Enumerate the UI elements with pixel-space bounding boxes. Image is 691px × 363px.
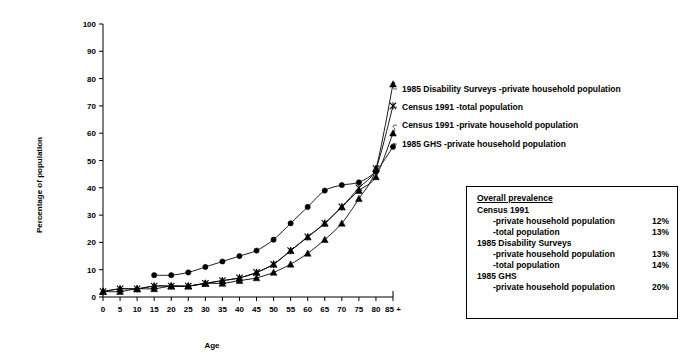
prevalence-row-spacer	[615, 249, 652, 259]
series-2	[100, 130, 397, 295]
y-tick-label: 70	[87, 102, 96, 111]
series-1	[100, 102, 396, 295]
x-tick-label: 5	[118, 305, 123, 314]
prevalence-box-title: Overall prevalence	[477, 193, 669, 203]
series-annotation-2: Census 1991 -private household populatio…	[402, 120, 578, 130]
prevalence-row: -private household population12%	[493, 216, 669, 226]
leader-lines	[393, 82, 397, 146]
prevalence-row-value: 20%	[652, 282, 669, 292]
prevalence-row: -private household population13%	[493, 249, 669, 259]
y-tick-label: 30	[87, 211, 96, 220]
y-axis-title: Percentage of population	[35, 137, 44, 233]
prevalence-row-spacer	[560, 227, 652, 237]
x-tick-label: 60	[303, 305, 312, 314]
series-layer	[100, 81, 397, 296]
prevalence-row-value: 12%	[652, 216, 669, 226]
x-tick-label: 55	[286, 305, 295, 314]
prevalence-row: -total population14%	[493, 260, 669, 270]
prevalence-row-label: -private household population	[493, 282, 615, 292]
x-tick-label: 30	[201, 305, 210, 314]
prevalence-group-name: Census 1991	[477, 205, 669, 215]
prevalence-box-body: Census 1991-private household population…	[477, 205, 669, 292]
y-tick-label: 10	[87, 266, 96, 275]
prevalence-row-value: 13%	[652, 227, 669, 237]
overall-prevalence-box: Overall prevalence Census 1991-private h…	[466, 186, 678, 319]
x-tick-label: 20	[167, 305, 176, 314]
x-axis-title: Age	[204, 341, 220, 350]
x-tick-label: 70	[337, 305, 346, 314]
prevalence-row: -total population13%	[493, 227, 669, 237]
y-tick-label: 90	[87, 47, 96, 56]
x-tick-label: 65	[320, 305, 329, 314]
y-tick-label: 100	[83, 20, 97, 29]
x-tick-label: 35	[218, 305, 227, 314]
y-tick-label: 0	[92, 293, 97, 302]
prevalence-group-name: 1985 Disability Surveys	[477, 238, 669, 248]
x-axis: 0510152025303540455055606570758085 +	[101, 291, 401, 314]
prevalence-row-label: -total population	[493, 260, 560, 270]
prevalence-row-spacer	[560, 260, 652, 270]
x-tick-label: 80	[371, 305, 380, 314]
y-tick-label: 60	[87, 129, 96, 138]
prevalence-row-spacer	[615, 216, 652, 226]
x-tick-label: 0	[101, 305, 106, 314]
series-0	[100, 81, 397, 295]
prevalence-row-spacer	[615, 282, 652, 292]
prevalence-row-value: 13%	[652, 249, 669, 259]
y-axis: 0102030405060708090100	[83, 20, 103, 302]
x-tick-label: 25	[184, 305, 193, 314]
series-annotation-0: 1985 Disability Surveys -private househo…	[402, 84, 621, 94]
series-3	[152, 144, 396, 278]
prevalence-row-label: -private household population	[493, 249, 615, 259]
prevalence-row-value: 14%	[652, 260, 669, 270]
chart-container: 0102030405060708090100 05101520253035404…	[0, 0, 691, 363]
x-tick-label: 15	[150, 305, 159, 314]
y-tick-label: 80	[87, 75, 96, 84]
x-tick-label: 45	[252, 305, 261, 314]
series-annotation-1: Census 1991 -total population	[402, 102, 523, 112]
prevalence-row-label: -private household population	[493, 216, 615, 226]
x-tick-label: 50	[269, 305, 278, 314]
prevalence-group-name: 1985 GHS	[477, 271, 669, 281]
y-tick-label: 20	[87, 238, 96, 247]
x-tick-label: 40	[235, 305, 244, 314]
x-tick-label: 85 +	[385, 305, 401, 314]
prevalence-row: -private household population20%	[493, 282, 669, 292]
y-tick-label: 40	[87, 184, 96, 193]
y-tick-label: 50	[87, 157, 96, 166]
x-tick-label: 10	[133, 305, 142, 314]
prevalence-row-label: -total population	[493, 227, 560, 237]
series-annotations: 1985 Disability Surveys -private househo…	[402, 84, 621, 149]
series-annotation-3: 1985 GHS -private household population	[402, 139, 566, 149]
x-tick-label: 75	[354, 305, 363, 314]
